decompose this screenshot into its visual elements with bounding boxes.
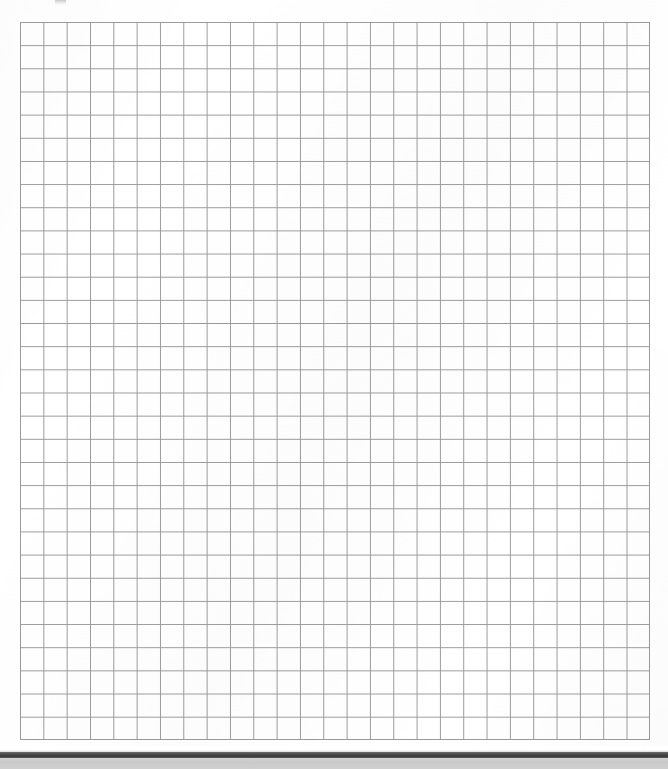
scanner-light-band (0, 758, 668, 769)
grid-content (20, 22, 21, 23)
page-caption: Scanned sheet of blank square grid (grap… (0, 0, 1, 1)
square-grid-paper[interactable] (20, 22, 650, 740)
scanned-page: Scanned sheet of blank square grid (grap… (0, 0, 668, 769)
scan-smudge-artifact (55, 0, 66, 5)
